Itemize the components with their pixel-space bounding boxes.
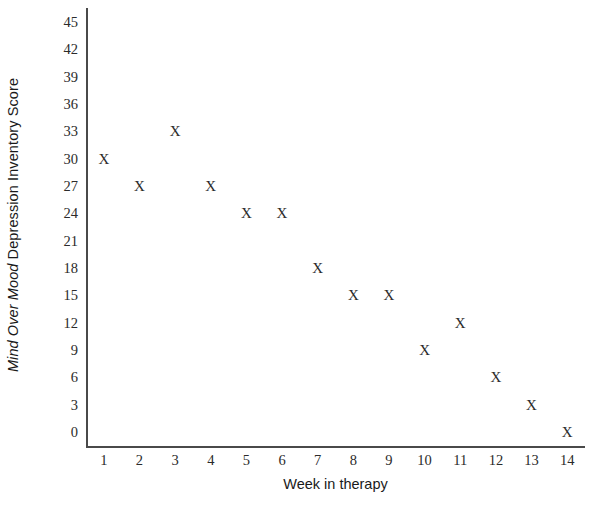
x-tick-label: 4 (196, 452, 226, 469)
data-point-marker: X (562, 425, 573, 440)
plot-area: 0369121518212427303336394245 12345678910… (0, 0, 611, 508)
y-tick-label: 15 (48, 287, 78, 304)
y-tick-label: 18 (48, 260, 78, 277)
data-point-marker: X (419, 343, 430, 358)
y-tick-label: 3 (48, 396, 78, 413)
y-tick-label: 33 (48, 123, 78, 140)
x-tick-label: 7 (303, 452, 333, 469)
y-tick-label: 21 (48, 232, 78, 249)
data-point-marker: X (241, 206, 252, 221)
x-tick-label: 1 (89, 452, 119, 469)
data-point-marker: X (312, 261, 323, 276)
y-axis-line (86, 8, 88, 447)
y-tick-label: 39 (48, 68, 78, 85)
x-tick-label: 14 (552, 452, 582, 469)
data-point-marker: X (490, 370, 501, 385)
data-point-marker: X (134, 179, 145, 194)
y-tick-label: 6 (48, 369, 78, 386)
x-tick-label: 5 (231, 452, 261, 469)
y-tick-label: 27 (48, 178, 78, 195)
y-tick-label: 42 (48, 41, 78, 58)
x-axis-title: Week in therapy (86, 476, 585, 492)
x-tick-label: 9 (374, 452, 404, 469)
data-point-marker: X (277, 206, 288, 221)
x-tick-label: 8 (338, 452, 368, 469)
x-axis-line (86, 446, 585, 448)
data-point-marker: X (455, 315, 466, 330)
x-tick-label: 3 (160, 452, 190, 469)
data-point-marker: X (348, 288, 359, 303)
y-tick-label: 9 (48, 342, 78, 359)
y-tick-label: 12 (48, 314, 78, 331)
data-point-marker: X (170, 124, 181, 139)
y-tick-label: 36 (48, 96, 78, 113)
data-point-marker: X (98, 151, 109, 166)
x-tick-label: 11 (445, 452, 475, 469)
x-tick-label: 10 (410, 452, 440, 469)
y-tick-label: 0 (48, 424, 78, 441)
data-point-marker: X (384, 288, 395, 303)
x-tick-label: 13 (517, 452, 547, 469)
x-tick-label: 2 (124, 452, 154, 469)
y-tick-label: 24 (48, 205, 78, 222)
y-tick-label: 45 (48, 14, 78, 31)
data-point-marker: X (526, 397, 537, 412)
chart-canvas: Mind Over Mood Depression Inventory Scor… (0, 0, 611, 508)
data-point-marker: X (205, 179, 216, 194)
y-tick-label: 30 (48, 150, 78, 167)
x-tick-label: 6 (267, 452, 297, 469)
x-tick-label: 12 (481, 452, 511, 469)
